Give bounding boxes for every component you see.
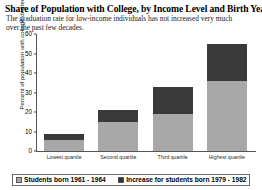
x-label-second-quartile: Second quartile	[95, 154, 143, 160]
legend-label-increase: Increase for students born 1979 - 1982	[126, 176, 246, 184]
x-label-highest-quartile: Highest quartile	[203, 154, 251, 160]
bar-stack	[44, 134, 84, 152]
bar-stack	[207, 44, 247, 151]
legend-item-increase: Increase for students born 1979 - 1982	[118, 176, 247, 184]
bar-column-third-quartile	[149, 34, 197, 151]
x-label-third-quartile: Third quartile	[149, 154, 197, 160]
bar-segment-base	[153, 114, 193, 151]
bar-column-highest-quartile	[203, 34, 251, 151]
chart-subtitle: The graduation rate for low-income indiv…	[6, 15, 246, 32]
bar-column-lowest-quartile	[40, 34, 88, 151]
chart-page: Share of Population with College, by Inc…	[0, 0, 262, 190]
light-gray-swatch-icon	[16, 177, 22, 183]
y-tick-40: 40	[25, 70, 32, 76]
y-tick-10: 10	[25, 128, 32, 134]
x-axis-line	[36, 151, 256, 152]
y-tick-60: 60	[25, 31, 32, 37]
bar-segment-base	[207, 81, 247, 151]
y-tick-0: 0	[28, 148, 32, 154]
legend-item-base: Students born 1961 - 1964	[16, 176, 106, 184]
chart-legend: Students born 1961 - 1964 Increase for s…	[12, 174, 250, 187]
bar-segment-base	[98, 122, 138, 151]
legend-label-base: Students born 1961 - 1964	[24, 176, 106, 184]
plot-area: Percent of population with college degre…	[4, 34, 258, 162]
x-label-lowest-quartile: Lowest quartile	[40, 154, 88, 160]
bar-stack	[153, 87, 193, 151]
bar-segment-base	[44, 140, 84, 152]
bar-stack	[98, 110, 138, 151]
x-axis-labels: Lowest quartile Second quartile Third qu…	[37, 154, 254, 160]
bar-group	[37, 34, 254, 151]
chart-title: Share of Population with College, by Inc…	[5, 3, 258, 14]
bar-segment-increase	[98, 110, 138, 122]
dark-gray-swatch-icon	[118, 177, 124, 183]
y-tick-20: 20	[25, 109, 32, 115]
axes: 60 50 40 30 20 10 0	[18, 34, 256, 162]
bar-segment-increase	[153, 87, 193, 114]
bar-column-second-quartile	[95, 34, 143, 151]
y-tick-30: 30	[25, 89, 32, 95]
y-tick-50: 50	[25, 50, 32, 56]
y-axis-ticks: 60 50 40 30 20 10 0	[18, 34, 34, 151]
bar-segment-increase	[207, 44, 247, 81]
